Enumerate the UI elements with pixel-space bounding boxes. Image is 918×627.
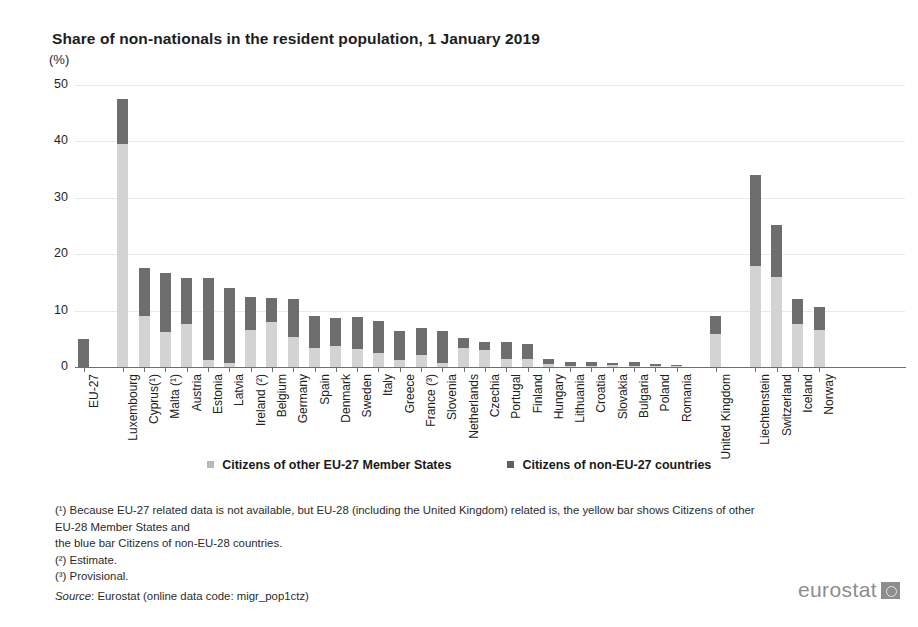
bar-segment-eu [750,266,761,367]
y-axis-unit-label: (%) [49,52,69,67]
x-axis-tick [798,367,799,372]
x-axis-line [75,367,906,368]
bar-column[interactable] [309,316,320,367]
bar-column[interactable] [792,299,803,367]
x-axis-tick [819,367,820,372]
bar-column[interactable] [181,278,192,367]
bar-column[interactable] [160,273,171,367]
x-axis-tick [613,367,614,372]
bar-segment-non-eu [416,328,427,355]
source-note: Source: Eurostat (online data code: migr… [55,588,775,605]
bar-segment-non-eu [203,278,214,360]
x-axis-tick [755,367,756,372]
legend-item-non-eu[interactable]: Citizens of non-EU-27 countries [507,458,711,472]
bar-column[interactable] [203,278,214,367]
bar-segment-eu [792,324,803,367]
bar-segment-non-eu [373,321,384,353]
bar-segment-non-eu [792,299,803,324]
x-axis-tick [378,367,379,372]
bar-segment-eu [352,349,363,367]
x-axis-category-label: Lithuania [575,374,586,423]
legend-label-non-eu: Citizens of non-EU-27 countries [522,458,711,472]
x-axis-category-label: Greece [405,374,416,413]
bar-column[interactable] [750,175,761,367]
x-axis-category-label: Denmark [341,374,352,423]
bar-column[interactable] [352,317,363,367]
x-axis-category-label: Spain [320,374,331,405]
bar-segment-non-eu [139,268,150,315]
x-axis-tick [187,367,188,372]
x-axis-tick [293,367,294,372]
bar-segment-eu [330,346,341,367]
bar-segment-eu [309,348,320,367]
x-axis-category-label: Liechtenstein [760,374,771,445]
bar-column[interactable] [479,342,490,367]
bar-column[interactable] [78,339,89,367]
x-axis-tick [506,367,507,372]
bar-segment-non-eu [501,342,512,359]
bar-column[interactable] [771,225,782,367]
bar-segment-non-eu [522,344,533,359]
x-axis-category-label: Romania [682,374,693,422]
x-axis-tick [677,367,678,372]
y-axis-tick-label: 0 [42,359,68,373]
x-axis-tick [144,367,145,372]
chart-page: Share of non-nationals in the resident p… [0,0,918,627]
x-axis-tick [549,367,550,372]
legend-label-eu: Citizens of other EU-27 Member States [222,458,451,472]
bar-column[interactable] [245,297,256,367]
x-axis-category-label: France (³) [426,374,437,427]
x-axis-category-label: Sweden [362,374,373,417]
bar-segment-non-eu [160,273,171,332]
bar-column[interactable] [522,344,533,367]
x-axis-tick [272,367,273,372]
bar-segment-eu [394,360,405,367]
x-axis-tick [357,367,358,372]
plot-area [75,85,905,367]
bar-segment-non-eu [750,175,761,266]
bar-column[interactable] [117,99,128,367]
bar-column[interactable] [330,318,341,367]
x-axis-category-label: Hungary [554,374,565,419]
y-axis: 01020304050 [40,85,68,367]
x-axis-category-label: Poland [660,374,671,411]
y-axis-tick-label: 50 [42,77,68,91]
x-axis-tick [421,367,422,372]
bar-column[interactable] [373,321,384,367]
x-axis-category-label: Portugal [511,374,522,419]
bar-column[interactable] [458,338,469,367]
bar-column[interactable] [710,316,721,367]
x-axis-tick [251,367,252,372]
x-axis-tick [165,367,166,372]
legend-item-eu[interactable]: Citizens of other EU-27 Member States [207,458,452,472]
bar-column[interactable] [437,331,448,367]
bar-segment-non-eu [394,331,405,359]
bar-column[interactable] [266,298,277,367]
x-axis-category-label: Czechia [490,374,501,417]
bar-column[interactable] [139,268,150,367]
bar-segment-eu [373,353,384,367]
x-axis-tick [528,367,529,372]
bar-column[interactable] [224,288,235,367]
bar-column[interactable] [501,342,512,367]
bar-column[interactable] [288,299,299,367]
bar-column[interactable] [394,331,405,367]
x-axis-tick [634,367,635,372]
gridline [75,198,905,199]
bar-segment-non-eu [479,342,490,349]
bar-column[interactable] [814,307,825,367]
bar-column[interactable] [416,328,427,367]
x-axis-tick [485,367,486,372]
x-axis-category-label: Croatia [596,374,607,413]
legend-swatch-eu-icon [207,461,214,468]
source-rest: : Eurostat (online data code: migr_pop1c… [91,590,309,602]
bar-segment-eu [710,334,721,367]
bar-segment-eu [501,359,512,367]
x-axis-tick [716,367,717,372]
bar-segment-eu [288,337,299,367]
bar-column[interactable] [543,359,554,367]
bar-segment-eu [479,350,490,367]
x-axis-category-label: Iceland [803,374,814,413]
eurostat-logo: eurostat [798,578,900,602]
x-axis-tick [315,367,316,372]
